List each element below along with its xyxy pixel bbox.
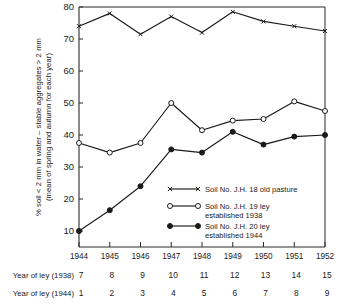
data-point-open-circle (168, 204, 173, 209)
data-point-cross (169, 15, 173, 19)
data-series-group (77, 10, 328, 234)
data-point-filled-circle (107, 208, 112, 213)
annotation-row-value: 4 (171, 288, 176, 298)
x-tick-label: 1948 (193, 252, 212, 261)
y-tick-label: 60 (63, 65, 74, 76)
y-tick-label: 70 (63, 33, 74, 44)
annotation-row-value: 1 (79, 288, 84, 298)
y-tick-label: 10 (63, 225, 74, 236)
data-point-filled-circle (138, 184, 143, 189)
annotation-row-value: 9 (140, 270, 145, 280)
data-point-open-circle (261, 117, 266, 122)
annotation-row-value: 10 (169, 270, 179, 280)
annotation-row-label: Year of ley (1944) (13, 289, 75, 298)
bottom-annotation-rows: Year of ley (1938)789101112131415Year of… (13, 270, 332, 298)
data-point-open-circle (77, 141, 82, 146)
series-1 (77, 10, 327, 36)
data-point-open-circle (196, 204, 201, 209)
data-point-filled-circle (169, 147, 174, 152)
data-point-open-circle (323, 109, 328, 114)
series-polyline (79, 12, 325, 34)
data-point-open-circle (200, 128, 205, 133)
x-tick-label: 1952 (316, 252, 335, 261)
data-point-filled-circle (168, 224, 173, 229)
chart-figure: 1020304050607080 % soil < 2 mm in water … (0, 0, 344, 307)
data-point-open-circle (169, 101, 174, 106)
data-point-open-circle (292, 99, 297, 104)
x-tick-label: 1950 (254, 252, 273, 261)
data-point-cross (139, 32, 143, 36)
annotation-row-value: 2 (109, 288, 114, 298)
data-point-open-circle (230, 118, 235, 123)
chart-legend: Soil No. J.H. 18 old pastureSoil No. J.H… (168, 185, 298, 240)
annotation-row-value: 8 (109, 270, 114, 280)
x-tick-label: 1949 (224, 252, 243, 261)
annotation-row-value: 8 (294, 288, 299, 298)
x-tick-label: 1951 (285, 252, 304, 261)
y-tick-label: 50 (63, 97, 74, 108)
annotation-row-value: 3 (140, 288, 145, 298)
legend-entry-1: Soil No. J.H. 18 old pasture (168, 185, 298, 194)
y-axis-title-line2: (mean of spring and autumn for each year… (44, 53, 53, 201)
data-point-filled-circle (200, 150, 205, 155)
annotation-row-1: Year of ley (1938)789101112131415 (13, 270, 332, 280)
annotation-row-value: 13 (261, 270, 271, 280)
series-polyline (79, 132, 325, 231)
legend-label-line1: Soil No. J.H. 19 ley (205, 202, 270, 211)
legend-entry-2: Soil No. J.H. 19 leyestablished 1938 (168, 202, 270, 220)
legend-label-line2: established 1944 (205, 231, 262, 240)
data-point-open-circle (107, 150, 112, 155)
data-point-filled-circle (77, 229, 82, 234)
series-2 (77, 99, 328, 155)
y-tick-label: 20 (63, 193, 74, 204)
legend-label-line1: Soil No. J.H. 20 ley (205, 222, 270, 231)
annotation-row-value: 5 (202, 288, 207, 298)
y-tick-label: 30 (63, 161, 74, 172)
annotation-row-2: Year of ley (1944)123456789 (13, 288, 330, 298)
annotation-row-value: 9 (325, 288, 330, 298)
x-tick-label: 1946 (131, 252, 150, 261)
data-point-filled-circle (292, 134, 297, 139)
data-point-open-circle (138, 141, 143, 146)
annotation-row-value: 7 (79, 270, 84, 280)
y-axis-title: % soil < 2 mm in water – stable aggregat… (34, 38, 53, 216)
series-polyline (79, 101, 325, 152)
data-point-filled-circle (196, 224, 201, 229)
x-tick-labels: 194419451946194719481949195019511952 (70, 252, 335, 261)
y-tick-label: 40 (63, 129, 74, 140)
plot-frame (79, 7, 325, 247)
annotation-row-value: 14 (292, 270, 302, 280)
annotation-row-label: Year of ley (1938) (13, 271, 75, 280)
data-point-filled-circle (230, 129, 235, 134)
legend-label-line1: Soil No. J.H. 18 old pasture (205, 185, 297, 194)
annotation-row-value: 11 (200, 270, 209, 280)
data-point-filled-circle (261, 142, 266, 147)
aggregate-stability-line-chart: 1020304050607080 % soil < 2 mm in water … (0, 0, 344, 307)
x-tick-label: 1945 (101, 252, 120, 261)
x-tick-label: 1944 (70, 252, 89, 261)
annotation-row-value: 15 (322, 270, 332, 280)
y-axis-ticks: 1020304050607080 (63, 1, 83, 236)
series-3 (77, 129, 328, 233)
annotation-row-value: 12 (230, 270, 240, 280)
y-tick-label: 80 (63, 1, 74, 12)
x-tick-label: 1947 (162, 252, 181, 261)
data-point-filled-circle (323, 133, 328, 138)
annotation-row-value: 6 (232, 288, 237, 298)
legend-label-line2: established 1938 (205, 211, 262, 220)
data-point-cross (200, 31, 204, 35)
x-axis-ticks (79, 242, 325, 247)
legend-entry-3: Soil No. J.H. 20 leyestablished 1944 (168, 222, 270, 240)
annotation-row-value: 7 (263, 288, 268, 298)
y-axis-title-line1: % soil < 2 mm in water – stable aggregat… (34, 38, 43, 216)
